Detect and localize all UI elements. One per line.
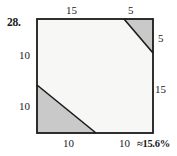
square-diagram-svg <box>0 0 177 156</box>
dimension-label-bottom-left: 10 <box>63 138 74 149</box>
dimension-label-right-middle: 15 <box>155 84 166 95</box>
dimension-label-left-bottom: 10 <box>19 101 30 112</box>
dimension-label-top-left: 15 <box>66 5 77 16</box>
dimension-label-right-top: 5 <box>158 33 164 44</box>
geometry-figure: 28. 15 5 5 15 10 10 10 10 ≈15.6% <box>0 0 177 156</box>
answer-text: ≈15.6% <box>137 138 170 149</box>
dimension-label-left-top: 10 <box>19 50 30 61</box>
dimension-label-bottom-right: 10 <box>119 138 130 149</box>
problem-number: 28. <box>7 17 21 28</box>
dimension-label-top-right: 5 <box>128 5 134 16</box>
